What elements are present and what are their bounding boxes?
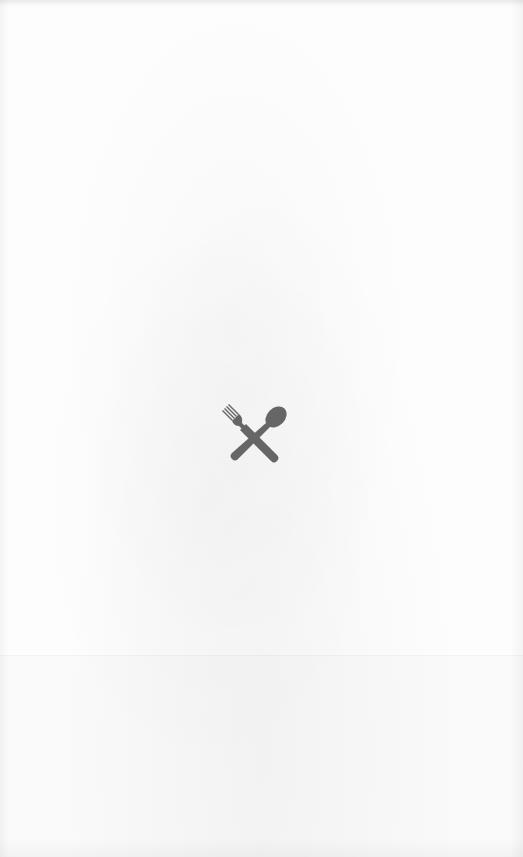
splash-screen xyxy=(0,0,523,857)
lower-background xyxy=(0,656,523,857)
spoon-icon xyxy=(231,403,291,461)
fork-and-spoon-icon xyxy=(220,403,290,467)
top-edge-shadow xyxy=(0,0,523,6)
